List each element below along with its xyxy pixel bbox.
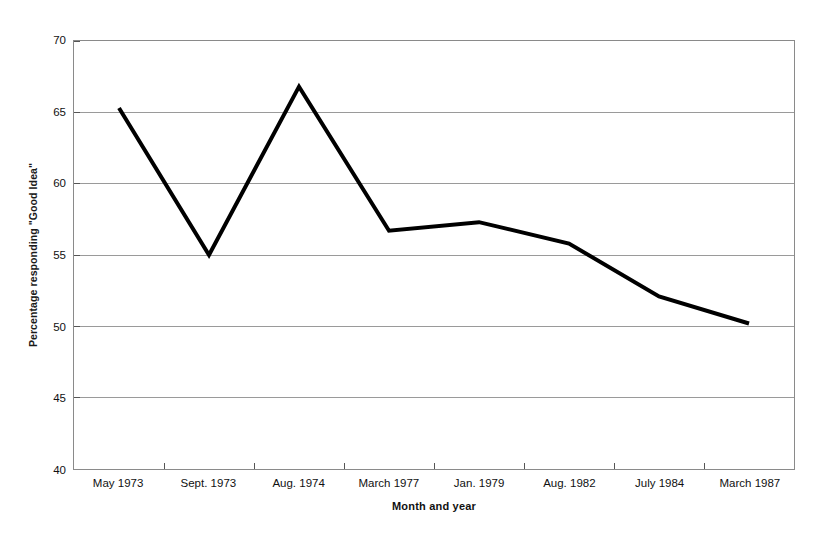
y-tick-label: 50: [36, 321, 66, 333]
y-axis-tick-marks: [74, 41, 80, 469]
x-tick-label: Aug. 1982: [524, 476, 614, 494]
gridlines: [74, 112, 794, 397]
x-tick-label: Jan. 1979: [434, 476, 524, 494]
data-line-series: [119, 87, 749, 324]
y-tick-label: 70: [36, 34, 66, 46]
x-axis-tick-marks: [164, 463, 704, 469]
y-tick-label: 40: [36, 464, 66, 476]
x-tick-label: March 1987: [705, 476, 795, 494]
x-tick-label: July 1984: [615, 476, 705, 494]
x-tick-label: May 1973: [73, 476, 163, 494]
x-tick-label: March 1977: [344, 476, 434, 494]
y-tick-label: 45: [36, 392, 66, 404]
x-tick-label: Sept. 1973: [163, 476, 253, 494]
y-axis-tick-labels: 70 65 60 55 50 45 40: [36, 40, 66, 470]
y-tick-label: 65: [36, 106, 66, 118]
x-axis-title: Month and year: [73, 500, 795, 512]
x-axis-tick-labels: May 1973 Sept. 1973 Aug. 1974 March 1977…: [73, 476, 795, 494]
line-chart-figure: Percentage responding "Good Idea" 70 65 …: [0, 0, 833, 534]
plot-svg: [74, 41, 794, 469]
y-tick-label: 55: [36, 249, 66, 261]
y-tick-label: 60: [36, 177, 66, 189]
x-tick-label: Aug. 1974: [254, 476, 344, 494]
plot-area: [73, 40, 795, 470]
